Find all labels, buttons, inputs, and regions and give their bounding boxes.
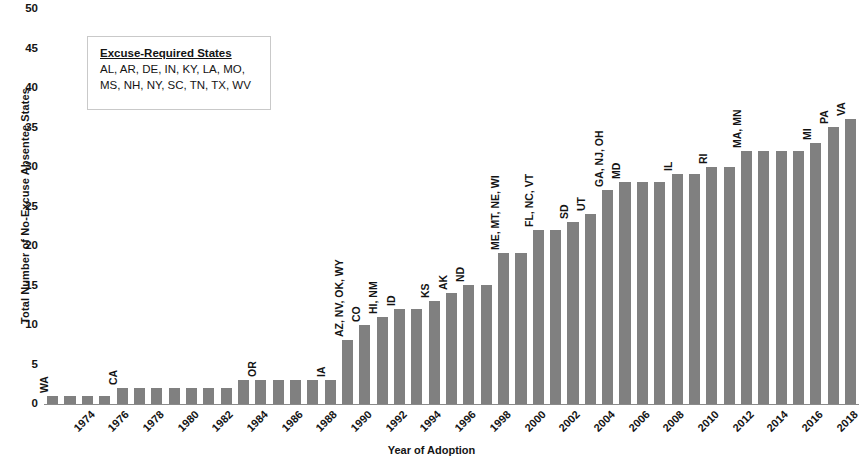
bar-value-label: HI, NM — [368, 281, 378, 314]
bar[interactable] — [411, 309, 422, 404]
x-tick-1974: 1974 — [71, 408, 97, 434]
bar-slot: HI, NM — [374, 9, 391, 404]
y-tick-5: 5 — [32, 358, 38, 370]
legend-box-title: Excuse-Required States — [100, 45, 270, 61]
bar[interactable]: AZ, NV, OK, WY — [342, 340, 353, 403]
bar[interactable]: RI — [706, 167, 717, 404]
y-tick-20: 20 — [25, 239, 38, 251]
bar-slot: FL, NC, VT — [530, 9, 547, 404]
x-tick-1998: 1998 — [487, 408, 513, 434]
bar-value-label: VA — [836, 102, 846, 116]
bar-slot: WA — [44, 9, 61, 404]
bar[interactable]: WA — [47, 396, 58, 404]
bar[interactable] — [793, 151, 804, 404]
bar-slot: GA, NJ, OH — [599, 9, 616, 404]
bar[interactable] — [637, 182, 648, 403]
bar-slot: MD — [616, 9, 633, 404]
bar[interactable]: UT — [585, 214, 596, 404]
bar[interactable] — [82, 396, 93, 404]
bar[interactable]: MA, MN — [741, 151, 752, 404]
bar[interactable]: FL, NC, VT — [533, 230, 544, 404]
bar[interactable]: SD — [567, 222, 578, 404]
bar[interactable]: PA — [828, 127, 839, 404]
bar[interactable] — [151, 388, 162, 404]
bar-slot — [269, 9, 286, 404]
bar[interactable]: IA — [325, 380, 336, 404]
bar[interactable]: CO — [359, 325, 370, 404]
bar-value-label: SD — [559, 204, 569, 219]
bar-value-label: ND — [455, 267, 465, 282]
y-tick-35: 35 — [25, 121, 38, 133]
bar-slot: VA — [842, 9, 859, 404]
bar[interactable] — [290, 380, 301, 404]
bar[interactable]: HI, NM — [377, 317, 388, 404]
bar[interactable]: ID — [394, 309, 405, 404]
bar[interactable] — [550, 230, 561, 404]
bar-value-label: AK — [438, 275, 448, 290]
bar[interactable]: CA — [117, 388, 128, 404]
bar-slot: KS — [426, 9, 443, 404]
bar[interactable]: MI — [810, 143, 821, 404]
y-axis-tick-labels: 05101520253035404550 — [0, 0, 44, 465]
bar-value-label: GA, NJ, OH — [594, 131, 604, 188]
bar[interactable]: VA — [845, 119, 856, 403]
bar[interactable]: MD — [619, 182, 630, 403]
y-tick-15: 15 — [25, 279, 38, 291]
bar-slot: RI — [703, 9, 720, 404]
bar[interactable] — [99, 396, 110, 404]
y-tick-40: 40 — [25, 81, 38, 93]
bar-value-label: RI — [698, 153, 708, 164]
bar-slot — [772, 9, 789, 404]
bar[interactable]: ME, MT, NE, WI — [498, 253, 509, 403]
bar[interactable] — [203, 388, 214, 404]
bar-value-label: PA — [819, 110, 829, 124]
bar[interactable]: IL — [672, 174, 683, 403]
bar[interactable] — [481, 285, 492, 404]
bar[interactable]: AK — [446, 293, 457, 404]
y-tick-30: 30 — [25, 160, 38, 172]
bar-slot: ME, MT, NE, WI — [495, 9, 512, 404]
x-tick-1996: 1996 — [452, 408, 478, 434]
bar-value-label: CO — [351, 306, 361, 322]
bar-value-label: UT — [576, 197, 586, 211]
bar-slot — [304, 9, 321, 404]
x-tick-1978: 1978 — [140, 408, 166, 434]
x-tick-2008: 2008 — [660, 408, 686, 434]
y-tick-25: 25 — [25, 200, 38, 212]
bar-value-label: AZ, NV, OK, WY — [334, 260, 344, 338]
bar[interactable] — [307, 380, 318, 404]
bar-value-label: MI — [802, 128, 812, 140]
x-tick-1984: 1984 — [244, 408, 270, 434]
bar[interactable] — [776, 151, 787, 404]
x-tick-1976: 1976 — [106, 408, 132, 434]
bar[interactable] — [724, 167, 735, 404]
bar-slot — [790, 9, 807, 404]
bar[interactable] — [689, 174, 700, 403]
bar[interactable] — [169, 388, 180, 404]
bar[interactable] — [186, 388, 197, 404]
bar[interactable] — [134, 388, 145, 404]
bar-slot: IL — [668, 9, 685, 404]
bar[interactable]: GA, NJ, OH — [602, 190, 613, 403]
bar-slot: UT — [582, 9, 599, 404]
bar[interactable]: OR — [255, 380, 266, 404]
bar[interactable] — [654, 182, 665, 403]
bar[interactable]: KS — [429, 301, 440, 404]
bar[interactable] — [221, 388, 232, 404]
bar-value-label: CA — [108, 370, 118, 385]
bar[interactable]: ND — [463, 285, 474, 404]
bar-value-label: MA, MN — [732, 109, 742, 148]
bar[interactable] — [238, 380, 249, 404]
bar[interactable] — [515, 253, 526, 403]
bar[interactable] — [273, 380, 284, 404]
legend-box-line-2: MS, NH, NY, SC, TN, TX, WV — [100, 77, 270, 93]
bar-value-label: IL — [663, 162, 673, 171]
bar[interactable] — [758, 151, 769, 404]
x-axis-title: Year of Adoption — [0, 444, 863, 456]
bar-slot — [720, 9, 737, 404]
x-tick-2000: 2000 — [522, 408, 548, 434]
bar-slot: MA, MN — [738, 9, 755, 404]
y-tick-10: 10 — [25, 318, 38, 330]
bar-value-label: WA — [39, 376, 49, 393]
bar[interactable] — [64, 396, 75, 404]
